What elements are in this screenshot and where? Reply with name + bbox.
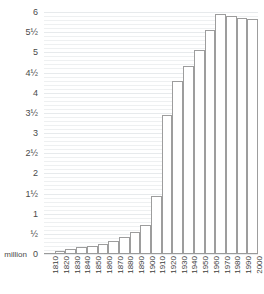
x-tick: 1850 bbox=[87, 256, 98, 294]
x-tick: 1920 bbox=[162, 256, 173, 294]
y-tick-label: 2½ bbox=[25, 149, 38, 158]
x-axis: 1810182018301840185018601870188018901900… bbox=[44, 256, 258, 294]
bar bbox=[162, 115, 173, 254]
x-axis-baseline bbox=[44, 253, 258, 254]
x-tick: 1860 bbox=[98, 256, 109, 294]
x-tick: 1840 bbox=[76, 256, 87, 294]
bar bbox=[151, 196, 162, 254]
x-tick: 1910 bbox=[151, 256, 162, 294]
x-tick: 1970 bbox=[215, 256, 226, 294]
x-tick: 1940 bbox=[183, 256, 194, 294]
y-tick-label: 0 bbox=[33, 250, 38, 259]
y-tick-label: 4 bbox=[33, 88, 38, 97]
x-tick: 2000 bbox=[247, 256, 258, 294]
bar bbox=[226, 16, 237, 254]
y-tick-label: 5 bbox=[33, 48, 38, 57]
x-tick: 1810 bbox=[44, 256, 55, 294]
plot-area bbox=[44, 12, 258, 254]
y-tick-label: 4½ bbox=[25, 68, 38, 77]
bar bbox=[140, 225, 151, 254]
y-axis: 65½54½43½32½21½1½0 million bbox=[0, 12, 42, 254]
y-tick-label: 3½ bbox=[25, 108, 38, 117]
bar bbox=[237, 18, 248, 254]
bar bbox=[205, 30, 216, 254]
bar bbox=[247, 19, 258, 254]
y-tick-label: 3 bbox=[33, 129, 38, 138]
bar bbox=[130, 232, 141, 254]
x-tick: 1820 bbox=[55, 256, 66, 294]
y-axis-unit-label: million bbox=[4, 251, 27, 259]
x-tick: 1890 bbox=[130, 256, 141, 294]
x-tick: 1870 bbox=[108, 256, 119, 294]
bar bbox=[119, 237, 130, 254]
y-tick-label: 5½ bbox=[25, 28, 38, 37]
x-tick-label: 2000 bbox=[256, 256, 264, 274]
x-tick: 1950 bbox=[194, 256, 205, 294]
x-tick: 1830 bbox=[65, 256, 76, 294]
y-tick-label: 2 bbox=[33, 169, 38, 178]
x-tick: 1990 bbox=[237, 256, 248, 294]
y-tick-label: 1 bbox=[33, 209, 38, 218]
population-bar-chart: 65½54½43½32½21½1½0 million 1810182018301… bbox=[0, 0, 264, 294]
bar bbox=[194, 50, 205, 254]
y-tick-label: ½ bbox=[30, 229, 38, 238]
y-tick-label: 6 bbox=[33, 8, 38, 17]
y-tick-label: 1½ bbox=[25, 189, 38, 198]
x-tick: 1980 bbox=[226, 256, 237, 294]
bar-series bbox=[44, 12, 258, 254]
bar bbox=[108, 241, 119, 254]
x-tick: 1930 bbox=[172, 256, 183, 294]
x-tick: 1960 bbox=[205, 256, 216, 294]
bar bbox=[215, 14, 226, 254]
bar bbox=[183, 66, 194, 254]
x-tick: 1900 bbox=[140, 256, 151, 294]
x-tick: 1880 bbox=[119, 256, 130, 294]
bar bbox=[172, 81, 183, 254]
